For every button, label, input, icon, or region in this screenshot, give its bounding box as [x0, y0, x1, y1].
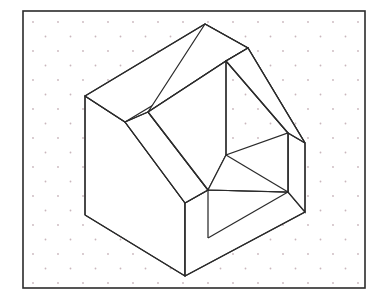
grid-dot	[332, 79, 334, 81]
grid-dot	[357, 195, 359, 197]
grid-dot	[320, 210, 322, 212]
grid-dot	[282, 50, 284, 52]
grid-dot	[70, 210, 72, 212]
grid-dot	[170, 36, 172, 38]
grid-dot	[45, 210, 47, 212]
grid-dot	[57, 195, 59, 197]
grid-dot	[57, 137, 59, 139]
grid-dot	[245, 36, 247, 38]
grid-dot	[32, 253, 34, 255]
grid-dot	[70, 181, 72, 183]
grid-dot	[82, 21, 84, 23]
grid-dot	[70, 94, 72, 96]
grid-dot	[320, 123, 322, 125]
grid-dot	[32, 21, 34, 23]
grid-dot	[32, 137, 34, 139]
grid-dot	[332, 195, 334, 197]
grid-dot	[70, 239, 72, 241]
grid-dot	[95, 268, 97, 270]
grid-dot	[357, 108, 359, 110]
grid-dot	[295, 65, 297, 67]
grid-dot	[220, 268, 222, 270]
grid-dot	[332, 282, 334, 284]
grid-dot	[320, 181, 322, 183]
grid-dot	[45, 181, 47, 183]
grid-dot	[332, 253, 334, 255]
grid-dot	[132, 253, 134, 255]
grid-dot	[107, 50, 109, 52]
grid-dot	[95, 65, 97, 67]
grid-dot	[270, 65, 272, 67]
grid-dot	[282, 79, 284, 81]
grid-dot	[57, 79, 59, 81]
grid-dot	[307, 108, 309, 110]
grid-dot	[182, 282, 184, 284]
grid-dot	[345, 268, 347, 270]
grid-dot	[332, 137, 334, 139]
grid-dot	[245, 268, 247, 270]
grid-dot	[270, 268, 272, 270]
drawing-page	[0, 0, 390, 303]
grid-dot	[345, 239, 347, 241]
grid-dot	[282, 282, 284, 284]
grid-dot	[357, 224, 359, 226]
grid-dot	[57, 108, 59, 110]
grid-dot	[257, 137, 259, 139]
grid-dot	[145, 36, 147, 38]
grid-dot	[232, 79, 234, 81]
grid-dot	[182, 21, 184, 23]
grid-dot	[232, 108, 234, 110]
grid-dot	[282, 253, 284, 255]
grid-dot	[70, 65, 72, 67]
grid-dot	[357, 166, 359, 168]
grid-dot	[120, 268, 122, 270]
grid-dot	[45, 152, 47, 154]
grid-dot	[345, 210, 347, 212]
grid-dot	[307, 50, 309, 52]
grid-dot	[82, 50, 84, 52]
grid-dot	[307, 79, 309, 81]
grid-dot	[57, 282, 59, 284]
grid-dot	[320, 268, 322, 270]
grid-dot	[82, 79, 84, 81]
grid-dot	[245, 94, 247, 96]
grid-dot	[32, 79, 34, 81]
grid-dot	[345, 181, 347, 183]
grid-dot	[307, 166, 309, 168]
grid-dot	[32, 282, 34, 284]
grid-dot	[332, 108, 334, 110]
grid-dot	[307, 224, 309, 226]
grid-dot	[257, 253, 259, 255]
grid-dot	[332, 166, 334, 168]
grid-dot	[45, 94, 47, 96]
grid-dot	[232, 253, 234, 255]
grid-dot	[320, 152, 322, 154]
grid-dot	[70, 36, 72, 38]
grid-dot	[70, 123, 72, 125]
grid-dot	[345, 94, 347, 96]
grid-dot	[232, 282, 234, 284]
grid-dot	[295, 94, 297, 96]
grid-dot	[57, 50, 59, 52]
grid-dot	[132, 50, 134, 52]
grid-dot	[107, 21, 109, 23]
grid-dot	[95, 36, 97, 38]
grid-dot	[320, 239, 322, 241]
grid-dot	[320, 65, 322, 67]
grid-dot	[32, 195, 34, 197]
grid-dot	[257, 50, 259, 52]
grid-dot	[295, 123, 297, 125]
grid-dot	[132, 282, 134, 284]
grid-dot	[257, 21, 259, 23]
grid-dot	[32, 166, 34, 168]
grid-dot	[307, 21, 309, 23]
grid-dot	[57, 166, 59, 168]
grid-dot	[357, 79, 359, 81]
grid-dot	[32, 108, 34, 110]
grid-dot	[320, 94, 322, 96]
grid-dot	[332, 50, 334, 52]
grid-dot	[45, 268, 47, 270]
grid-dot	[357, 282, 359, 284]
grid-dot	[82, 108, 84, 110]
grid-dot	[332, 21, 334, 23]
